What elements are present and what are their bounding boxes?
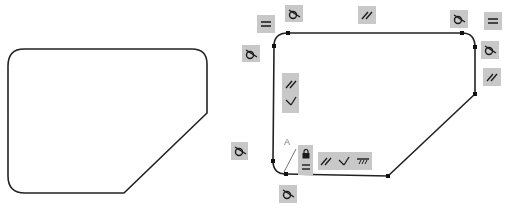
tangent-icon <box>244 48 258 60</box>
tangent-icon <box>452 13 466 25</box>
parallel-icon <box>285 79 297 89</box>
perpendicular-icon <box>285 95 297 107</box>
dimension-label: A <box>284 137 290 147</box>
perpendicular-icon <box>338 155 350 167</box>
tangent-constraint-badge[interactable] <box>231 142 248 160</box>
fix-equal-constraint-badge[interactable] <box>298 145 313 175</box>
tangent-constraint-badge[interactable] <box>285 5 303 22</box>
parallel-constraint-badge[interactable] <box>358 6 376 24</box>
tangent-icon <box>483 44 497 56</box>
parallel-icon <box>486 72 498 82</box>
parallel-icon <box>320 156 332 166</box>
equal-icon <box>260 20 272 28</box>
tangent-icon <box>233 145 247 157</box>
lock-icon <box>301 149 311 159</box>
tangent-constraint-badge[interactable] <box>279 185 297 203</box>
horizontal-ground-icon <box>356 157 370 165</box>
equal-constraint-badge[interactable] <box>257 15 275 33</box>
parallel-perpendicular-horizontal-constraint-badge[interactable] <box>318 152 372 170</box>
tangent-icon <box>281 188 295 200</box>
tangent-constraint-badge[interactable] <box>481 41 499 59</box>
dimension-leader <box>284 149 296 172</box>
parallel-perpendicular-constraint-badge[interactable] <box>282 73 299 113</box>
parallel-constraint-badge[interactable] <box>483 68 501 86</box>
equal-constraint-badge[interactable] <box>484 12 502 30</box>
equal-icon <box>487 17 499 25</box>
diagram-canvas <box>0 0 508 218</box>
sketch-profile-plain <box>8 49 207 193</box>
tangent-constraint-badge[interactable] <box>242 45 260 62</box>
equal-icon <box>301 163 311 171</box>
parallel-icon <box>361 10 373 20</box>
tangent-constraint-badge[interactable] <box>450 10 468 28</box>
tangent-icon <box>287 8 301 20</box>
